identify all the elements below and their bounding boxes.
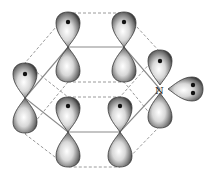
nitrogen-label: N: [155, 85, 164, 96]
p-orbital-c-left: [13, 63, 37, 133]
dashed-lower-hexagon: [25, 82, 160, 167]
electron-dot: [118, 104, 122, 108]
ring-bonds: [25, 47, 160, 132]
lone-pair-orbital: [168, 77, 203, 101]
dashed-upper-hexagon: [25, 13, 160, 97]
electron-dot: [66, 20, 70, 24]
electron-dot: [191, 91, 195, 95]
electron-dot: [158, 59, 162, 63]
electron-dot: [191, 83, 195, 87]
electron-dot: [66, 104, 70, 108]
pyridine-orbital-diagram: N: [0, 0, 216, 179]
electron-dot: [23, 72, 27, 76]
electron-dot: [122, 20, 126, 24]
